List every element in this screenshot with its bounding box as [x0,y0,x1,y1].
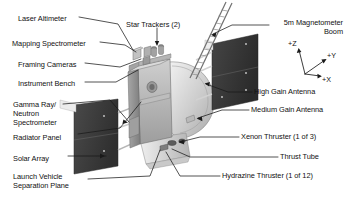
callout-thrust-tube: Thrust Tube [280,152,319,161]
callout-xenon-thruster: Xenon Thruster (1 of 3) [241,132,316,141]
callout-star-trackers: Star Trackers (2) [126,20,180,29]
callout-instrument-bench: Instrument Bench [18,79,75,88]
callout-solar-array: Solar Array [13,154,49,163]
callout-gamma-ray-neutron-spectrometer: Gamma Ray/ Neutron Spectrometer [13,100,57,128]
callout-hydrazine-thruster: Hydrazine Thruster (1 of 12) [222,171,313,180]
axis-label-x: +X [322,75,331,84]
high-gain-antenna-dish [168,62,214,139]
callout-mapping-spectrometer: Mapping Spectrometer [12,39,86,48]
callout-framing-cameras: Framing Cameras [18,60,76,69]
callout-medium-gain-antenna: Medium Gain Antenna [251,105,323,114]
axis-label-y: +Y [327,51,336,60]
callout-radiator-panel: Radiator Panel [13,133,61,142]
callout-launch-vehicle-separation-plane: Launch Vehicle Separation Plane [13,172,69,190]
callout-magnetometer-boom: 5m Magnetometer Boom [255,18,343,36]
callout-high-gain-antenna: High Gain Antenna [254,87,315,96]
coordinate-axes [299,50,325,76]
spacecraft-bus [128,54,172,148]
figure-canvas: Laser Altimeter Mapping Spectrometer Fra… [0,0,345,198]
coordinate-axes-arrowheads [297,48,327,79]
axis-label-z: +Z [288,39,297,48]
callout-laser-altimeter: Laser Altimeter [18,14,67,23]
